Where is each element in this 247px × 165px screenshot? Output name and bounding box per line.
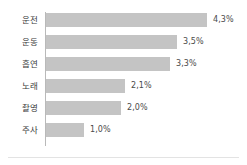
table-row: 노래 2,1% bbox=[0, 79, 247, 101]
table-row: 주사 1,0% bbox=[0, 123, 247, 145]
bar-track-1: 3,5% bbox=[46, 35, 247, 49]
table-row: 운동 3,5% bbox=[0, 35, 247, 57]
plot-area: 운전 4,3% 운동 3,5% 흡연 3,3% bbox=[0, 0, 247, 150]
category-label-3: 노래 bbox=[0, 79, 38, 93]
bar-track-5: 1,0% bbox=[46, 123, 247, 137]
bar-track-2: 3,3% bbox=[46, 57, 247, 71]
bar-0 bbox=[46, 13, 207, 27]
bar-value-3: 2,1% bbox=[131, 79, 152, 93]
bar-5 bbox=[46, 123, 84, 137]
category-label-5: 주사 bbox=[0, 123, 38, 137]
category-label-1: 운동 bbox=[0, 35, 38, 49]
table-row: 촬영 2,0% bbox=[0, 101, 247, 123]
bar-chart: 운전 4,3% 운동 3,5% 흡연 3,3% bbox=[0, 0, 247, 165]
footer-divider bbox=[8, 157, 239, 158]
bar-track-3: 2,1% bbox=[46, 79, 247, 93]
category-label-4: 촬영 bbox=[0, 101, 38, 115]
bar-value-4: 2,0% bbox=[127, 101, 148, 115]
bar-3 bbox=[46, 79, 125, 93]
bar-value-0: 4,3% bbox=[213, 13, 234, 27]
bar-4 bbox=[46, 101, 121, 115]
bar-track-0: 4,3% bbox=[46, 13, 247, 27]
bar-track-4: 2,0% bbox=[46, 101, 247, 115]
bar-1 bbox=[46, 35, 177, 49]
bar-2 bbox=[46, 57, 170, 71]
category-label-0: 운전 bbox=[0, 13, 38, 27]
table-row: 운전 4,3% bbox=[0, 13, 247, 35]
bar-value-1: 3,5% bbox=[183, 35, 204, 49]
category-label-2: 흡연 bbox=[0, 57, 38, 71]
table-row: 흡연 3,3% bbox=[0, 57, 247, 79]
bar-value-2: 3,3% bbox=[176, 57, 197, 71]
bar-row-group: 운전 4,3% 운동 3,5% 흡연 3,3% bbox=[0, 13, 247, 145]
bar-value-5: 1,0% bbox=[90, 123, 111, 137]
